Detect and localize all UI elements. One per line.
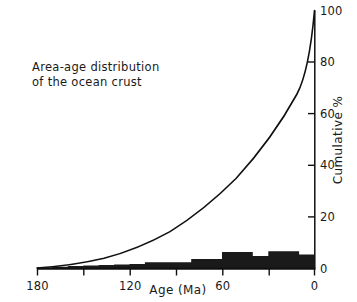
chart-canvas bbox=[0, 0, 357, 302]
area-age-distribution-chart: 180 120 60 0 0 20 40 60 80 100 Area-age … bbox=[0, 0, 357, 302]
y-axis-title: Cumulative % bbox=[331, 96, 345, 185]
y-axis-ticks bbox=[308, 62, 315, 217]
chart-annotation-line-2: of the ocean crust bbox=[32, 75, 142, 89]
xtick-label-0: 0 bbox=[311, 279, 319, 293]
x-axis-title: Age (Ma) bbox=[149, 283, 206, 297]
ytick-label-80: 80 bbox=[320, 55, 335, 69]
cumulative-curve bbox=[37, 11, 315, 269]
xtick-label-180: 180 bbox=[26, 279, 49, 293]
ytick-label-100: 100 bbox=[320, 4, 343, 18]
histogram-bars bbox=[37, 251, 315, 268]
ytick-label-0: 0 bbox=[320, 262, 328, 276]
xtick-label-120: 120 bbox=[119, 279, 142, 293]
ytick-label-20: 20 bbox=[320, 210, 335, 224]
chart-annotation: Area-age distributionof the ocean crust bbox=[32, 60, 160, 90]
chart-annotation-line-1: Area-age distribution bbox=[32, 60, 160, 74]
xtick-label-60: 60 bbox=[215, 279, 230, 293]
